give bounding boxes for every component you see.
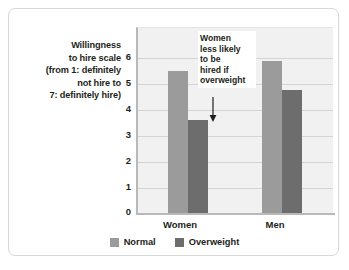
- chart-card: Willingness to hire scale (from 1: defin…: [8, 8, 339, 256]
- y-axis-label-line-5: 7: definitely hire): [13, 89, 121, 102]
- bar-women-normal[interactable]: [168, 71, 188, 214]
- y-tick-label-2: 2: [113, 155, 131, 166]
- legend-label-overweight: Overweight: [189, 237, 240, 247]
- y-tick-label-1: 1: [113, 181, 131, 192]
- chart-legend: Normal Overweight: [9, 237, 340, 247]
- bar-men-normal[interactable]: [262, 61, 282, 214]
- y-axis-label-line-2: to hire scale: [13, 52, 121, 65]
- x-axis-line: [136, 213, 335, 215]
- annotation-line-3: to be: [200, 54, 255, 65]
- y-axis-label: Willingness to hire scale (from 1: defin…: [13, 39, 121, 102]
- y-tick-label-5: 5: [113, 77, 131, 88]
- legend-item-normal[interactable]: Normal: [110, 237, 156, 247]
- y-tick-label-0: 0: [113, 206, 131, 217]
- bar-men-overweight[interactable]: [282, 90, 302, 214]
- legend-swatch-overweight-icon: [175, 238, 184, 247]
- legend-swatch-normal-icon: [110, 238, 119, 247]
- y-tick-label-6: 6: [113, 51, 131, 62]
- bar-women-overweight[interactable]: [188, 120, 208, 214]
- annotation-line-4: hired if: [200, 65, 255, 76]
- annotation-line-5: overweight: [200, 75, 255, 86]
- x-cat-label-men: Men: [245, 219, 305, 230]
- x-cat-label-women: Women: [150, 219, 210, 230]
- y-tick-label-4: 4: [113, 103, 131, 114]
- y-tick-label-3: 3: [113, 129, 131, 140]
- legend-item-overweight[interactable]: Overweight: [175, 237, 240, 247]
- annotation-line-1: Women: [200, 33, 255, 44]
- legend-label-normal: Normal: [124, 237, 156, 247]
- annotation-callout: Women less likely to be hired if overwei…: [198, 31, 256, 88]
- down-arrow-icon: [208, 97, 218, 123]
- annotation-line-2: less likely: [200, 44, 255, 55]
- y-axis-label-line-1: Willingness: [13, 39, 121, 52]
- y-axis-label-line-3: (from 1: definitely: [13, 64, 121, 77]
- y-axis-label-line-4: not hire to: [13, 77, 121, 90]
